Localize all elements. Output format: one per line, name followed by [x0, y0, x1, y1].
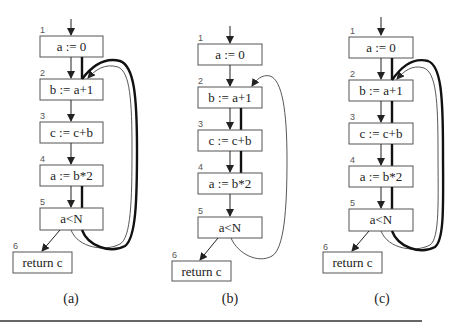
node-number: 6 [13, 241, 18, 251]
node-label: a<N [370, 212, 393, 227]
node-label: return c [332, 255, 372, 270]
node-label: return c [22, 255, 62, 270]
edge-5-6 [352, 231, 369, 251]
node-number: 3 [40, 111, 45, 121]
node-number: 3 [198, 119, 203, 129]
node-number: 1 [198, 33, 203, 43]
node-number: 3 [350, 112, 355, 122]
node-number: 1 [350, 26, 355, 36]
node-number: 2 [40, 68, 45, 78]
node-label: a := b*2 [360, 169, 403, 184]
node-label: a<N [219, 220, 242, 235]
node-label: c := c+b [209, 133, 252, 148]
node-label: a := 0 [366, 40, 396, 55]
node-number: 2 [198, 76, 203, 86]
node-label: a := b*2 [209, 176, 252, 191]
cfg-diagram-c: 1 a := 0 2 b := a+1 3 c := c+b 4 a := b*… [323, 17, 443, 307]
node-label: b := a+1 [359, 83, 403, 98]
node-number: 2 [350, 69, 355, 79]
node-label: a := 0 [215, 47, 245, 62]
node-number: 6 [172, 250, 177, 260]
node-label: c := c+b [360, 126, 403, 141]
node-number: 5 [198, 206, 203, 216]
node-label: return c [181, 264, 221, 279]
node-label: c := c+b [50, 125, 93, 140]
node-number: 5 [40, 197, 45, 207]
node-label: b := a+1 [50, 82, 94, 97]
node-6: 6 return c [13, 241, 72, 273]
node-number: 4 [40, 154, 45, 164]
cfg-diagram-b: 1 a := 0 2 b := a+1 3 c := c+b 4 a := b*… [172, 26, 287, 307]
node-number: 4 [350, 155, 355, 165]
node-number: 4 [198, 162, 203, 172]
node-6: 6 return c [172, 250, 231, 281]
edge-5-6 [42, 230, 60, 251]
node-label: a<N [60, 211, 83, 226]
node-6: 6 return c [323, 242, 382, 273]
node-number: 6 [323, 242, 328, 252]
cfg-diagram-a: 1 a := 0 2 b := a+1 3 c := c+b 4 a := b*… [13, 19, 137, 307]
caption-b: (b) [222, 291, 239, 307]
caption-a: (a) [63, 291, 79, 307]
node-label: a := b*2 [50, 168, 93, 183]
node-label: b := a+1 [208, 90, 252, 105]
node-number: 5 [350, 198, 355, 208]
node-label: a := 0 [57, 39, 87, 54]
caption-c: (c) [374, 291, 390, 307]
figure-canvas: 1 a := 0 2 b := a+1 3 c := c+b 4 a := b*… [0, 0, 456, 325]
edge-5-6 [200, 238, 218, 260]
node-number: 1 [40, 25, 45, 35]
